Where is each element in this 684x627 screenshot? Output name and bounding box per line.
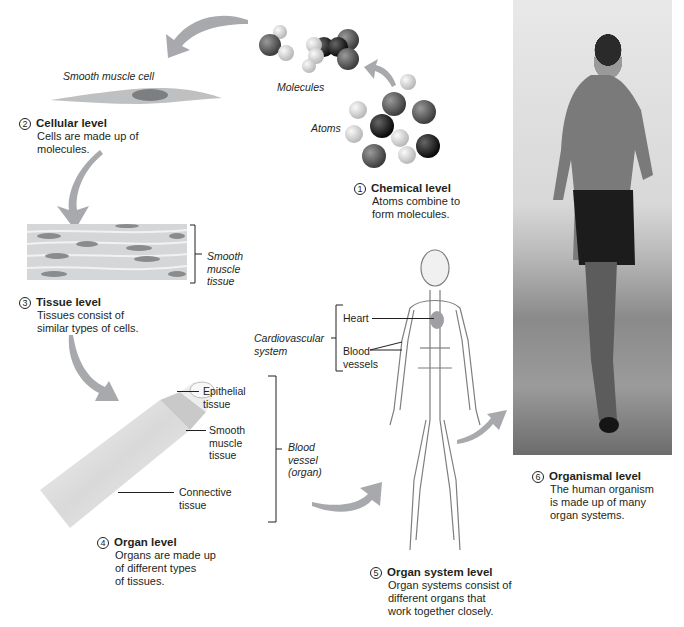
- level-desc: work together closely.: [370, 605, 512, 618]
- heart-label: Heart: [343, 312, 369, 325]
- organ-level-caption: 4Organ level Organs are made up of diffe…: [97, 536, 216, 588]
- level-number-badge: 2: [19, 118, 31, 130]
- level-title: Chemical level: [371, 182, 451, 195]
- level-title: Tissue level: [36, 296, 101, 309]
- runner-photo: [513, 0, 672, 455]
- level-desc: Cells are made up of: [19, 130, 139, 143]
- connective-leader: [118, 492, 174, 493]
- smooth-muscle-tissue-organ-label: Smooth muscle tissue: [209, 424, 245, 462]
- smooth-muscle-tissue-illustration: [27, 224, 187, 280]
- level-desc: organ systems.: [532, 509, 654, 522]
- smooth-muscle-cell-label: Smooth muscle cell: [63, 70, 154, 83]
- level-desc: form molecules.: [354, 208, 460, 221]
- level-desc: different organs that: [370, 592, 512, 605]
- organ-system-level-caption: 5Organ system level Organ systems consis…: [370, 566, 512, 618]
- smooth-muscle-tissue-label: Smooth muscle tissue: [207, 250, 243, 288]
- level-desc: is made up of many: [532, 496, 654, 509]
- blood-vessel-organ-label: Blood vessel (organ): [288, 441, 322, 479]
- level-desc: Atoms combine to: [354, 195, 460, 208]
- level-title: Organ level: [114, 536, 177, 549]
- level-desc: The human organism: [532, 483, 654, 496]
- cellular-level-caption: 2Cellular level Cells are made up of mol…: [19, 117, 139, 156]
- smooth-muscle-cell-illustration: [50, 86, 222, 106]
- arrow-molecules-to-cell: [160, 10, 250, 60]
- epithelial-leader: [177, 391, 199, 392]
- epithelial-tissue-label: Epithelial tissue: [203, 385, 246, 410]
- cardiovascular-figure: [380, 250, 490, 560]
- smooth-muscle-leader: [186, 430, 206, 431]
- heart-leader: [372, 318, 434, 319]
- molecules-label: Molecules: [277, 81, 324, 94]
- level-number-badge: 5: [370, 567, 382, 579]
- chemical-level-caption: 1Chemical level Atoms combine to form mo…: [354, 182, 460, 221]
- level-number-badge: 6: [532, 471, 544, 483]
- level-desc: Organ systems consist of: [370, 579, 512, 592]
- level-number-badge: 4: [97, 537, 109, 549]
- level-desc: Tissues consist of: [19, 309, 138, 322]
- tissue-level-caption: 3Tissue level Tissues consist of similar…: [19, 296, 138, 335]
- level-desc: similar types of cells.: [19, 322, 138, 335]
- level-title: Cellular level: [36, 117, 107, 130]
- level-number-badge: 1: [354, 183, 366, 195]
- arrow-cell-to-tissue: [45, 150, 105, 230]
- level-title: Organismal level: [549, 470, 641, 483]
- level-number-badge: 3: [19, 297, 31, 309]
- atoms-label: Atoms: [311, 122, 341, 135]
- level-desc: of tissues.: [97, 575, 216, 588]
- blood-vessel-bracket: [268, 376, 284, 526]
- organismal-level-caption: 6Organismal level The human organism is …: [532, 470, 654, 522]
- blood-vessels-leader: [370, 342, 406, 356]
- level-desc: Organs are made up: [97, 549, 216, 562]
- cardiovascular-system-label: Cardiovascular system: [254, 332, 324, 357]
- level-desc: molecules.: [19, 143, 139, 156]
- connective-tissue-label: Connective tissue: [179, 486, 232, 511]
- atoms-illustration: [340, 68, 450, 168]
- arrow-organ-to-system: [310, 478, 390, 518]
- level-desc: of different types: [97, 562, 216, 575]
- tissue-bracket: [190, 225, 204, 285]
- level-title: Organ system level: [387, 566, 492, 579]
